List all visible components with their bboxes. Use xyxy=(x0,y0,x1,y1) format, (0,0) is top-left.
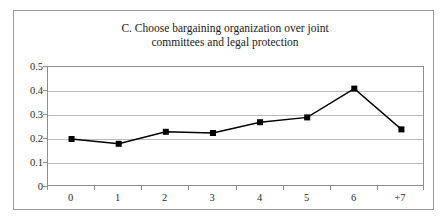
x-tick-label-4: 4 xyxy=(236,192,283,203)
chart-title-line-2: committees and legal protection xyxy=(151,36,298,48)
x-tick-label-2: 2 xyxy=(141,192,188,203)
series-line-chart xyxy=(48,67,425,187)
data-point-marker xyxy=(351,86,357,92)
data-point-marker xyxy=(210,130,216,136)
x-tick-label-0: 0 xyxy=(47,192,94,203)
x-tick-label-6: 6 xyxy=(330,192,377,203)
series-markers xyxy=(69,86,405,147)
x-tick-mark xyxy=(94,186,95,190)
data-point-marker xyxy=(163,129,169,135)
y-tick-label-0.1: 0.1 xyxy=(13,157,43,168)
y-tick-label-0.4: 0.4 xyxy=(13,85,43,96)
chart-title-line-1: C. Choose bargaining organization over j… xyxy=(121,22,328,34)
x-tick-mark xyxy=(236,186,237,190)
x-tick-mark xyxy=(47,186,48,190)
series-polyline xyxy=(72,89,402,144)
x-tick-mark xyxy=(330,186,331,190)
data-point-marker xyxy=(69,136,75,142)
x-tick-label-1: 1 xyxy=(94,192,141,203)
y-tick-label-0: 0 xyxy=(13,181,43,192)
chart-title: C. Choose bargaining organization over j… xyxy=(60,22,390,49)
chart-figure: C. Choose bargaining organization over j… xyxy=(0,0,444,223)
plot-area xyxy=(47,66,424,186)
x-tick-mark xyxy=(141,186,142,190)
data-point-marker xyxy=(304,114,310,120)
x-tick-mark xyxy=(188,186,189,190)
x-tick-label-5: 5 xyxy=(283,192,330,203)
y-tick-label-0.2: 0.2 xyxy=(13,133,43,144)
x-tick-mark xyxy=(377,186,378,190)
data-point-marker xyxy=(116,141,122,147)
x-tick-label-plus7: +7 xyxy=(377,192,423,203)
y-tick-label-0.5: 0.5 xyxy=(13,61,43,72)
x-tick-label-3: 3 xyxy=(188,192,236,203)
data-point-marker xyxy=(257,119,263,125)
y-tick-label-0.3: 0.3 xyxy=(13,109,43,120)
x-tick-mark xyxy=(423,186,424,190)
data-point-marker xyxy=(398,126,404,132)
x-tick-mark xyxy=(283,186,284,190)
